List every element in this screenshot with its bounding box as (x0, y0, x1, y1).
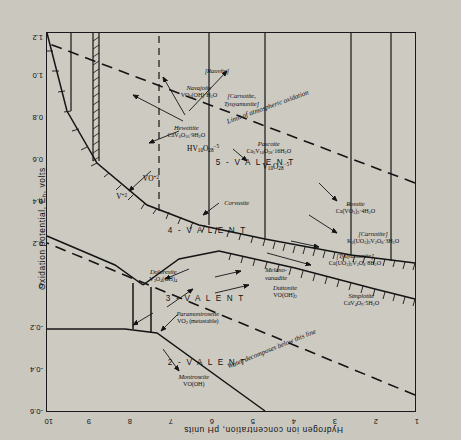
label-corvusite: Corvusite (224, 199, 249, 207)
y-tick-1-0: 1.0 (32, 71, 43, 80)
doloresite-name: Doloresite (150, 268, 177, 275)
doloresite-formula: V3O4(OH)4 (149, 274, 177, 281)
y-tick-minus-0-6: -0.6 (30, 407, 43, 416)
boundary-2-3-diagonal (125, 329, 265, 411)
arrow-corvusite (203, 203, 219, 215)
x-axis-title: Hydrogen ion concentration, pH units (184, 425, 343, 435)
x-tick-10: 10 (45, 417, 53, 426)
hatch-band-vertical (93, 33, 99, 161)
label-rossite: Rossite Ca(VO3)2·4H2O (336, 200, 375, 215)
montroseite-formula: VO(OH) (183, 379, 204, 386)
y-tick-1-2: 1.2 (32, 33, 43, 42)
corvusite-name: Corvusite (224, 199, 249, 206)
arrow-carnotite (309, 215, 337, 233)
label-hewettite: Hewettite CaV6O16·9H2O (168, 124, 205, 139)
rossite-name: Rossite (346, 200, 364, 207)
y-tick-0-2: 0.2 (32, 239, 43, 248)
x-tick-2: 2 (374, 417, 378, 426)
figure-root: Hydrogen ion concentration, pH units 1 2… (0, 0, 461, 440)
label-montroseite: Montroseite VO(OH) (178, 373, 209, 387)
melano-name-line1: Melano- (265, 266, 287, 273)
y-tick-0: 0 (39, 281, 43, 290)
label-tyuyamunite: [Tyuyamunite] Ca(UO2)2V2O8·8H2O (329, 252, 381, 267)
carnotite-tyuy-line1: [Carnotite, (227, 92, 255, 99)
label-carnotite-tyuyamunite: [Carnotite, Tyuyamunite] (224, 92, 259, 107)
label-simplotite: Simplotite CaV4O9·5H2O (344, 292, 379, 307)
pascoite-name: Pascoite (258, 140, 280, 147)
y-tick-0-6: 0.6 (32, 155, 43, 164)
x-tick-9: 9 (87, 417, 91, 426)
x-tick-7: 7 (169, 417, 173, 426)
arrow-melano-a (215, 271, 241, 277)
x-tick-1: 1 (415, 417, 419, 426)
label-navajoite: Navajoite VO2(OH)·H2O (181, 84, 217, 99)
boundary-4-upper-left (219, 251, 415, 299)
hatching-upper-left (229, 253, 415, 306)
arrow-rossite (319, 183, 337, 201)
y-tick-0-8: 0.8 (32, 113, 43, 122)
hewettite-formula: CaV6O16·9H2O (168, 130, 205, 137)
x-tick-5: 5 (251, 417, 255, 426)
label-rauvite: [Rauvite] (205, 67, 229, 75)
field-4-valent: 4 - V A L E N T (168, 226, 247, 235)
y-tick-minus-0-2: -0.2 (30, 323, 43, 332)
label-melano-vanadite: Melano- vanadite (265, 266, 287, 281)
y-tick-minus-0-4: -0.4 (30, 365, 43, 374)
x-tick-8: 8 (128, 417, 132, 426)
carnotite-name: [Carnotite] (358, 230, 387, 237)
duttonite-formula: VO(OH)2 (273, 290, 296, 297)
label-pascoite: Pascoite Ca3V10O28·16H2O (246, 140, 291, 155)
pascoite-formula: Ca3V10O28·16H2O (246, 146, 291, 153)
x-tick-6: 6 (210, 417, 214, 426)
rauvite-name: [Rauvite] (205, 67, 229, 74)
hewettite-name: Hewettite (174, 124, 198, 131)
paramontroseite-formula: VO2 (metastable) (177, 316, 219, 323)
arrow-duttonite (215, 285, 249, 293)
ion-vo-plus-2: VO+2 (143, 174, 159, 183)
eh-ph-diagram: Hydrogen ion concentration, pH units 1 2… (0, 0, 461, 440)
x-tick-4: 4 (292, 417, 296, 426)
carnotite-tyuy-line2: Tyuyamunite] (224, 99, 259, 106)
plot-area: 2 - V A L E N T 3 - V A L E N T 4 - V A … (46, 32, 416, 412)
diagram-vectors (47, 33, 415, 411)
navajoite-name: Navajoite (186, 84, 211, 91)
y-tick-0-4: 0.4 (32, 197, 43, 206)
navajoite-formula: VO2(OH)·H2O (181, 90, 217, 97)
carnotite-formula: K2(UO2)2V2O8·3H2O (347, 236, 399, 243)
label-carnotite: [Carnotite] K2(UO2)2V2O8·3H2O (347, 230, 399, 245)
label-paramontroseite: Paramontroseite VO2 (metastable) (176, 310, 219, 325)
rossite-formula: Ca(VO3)2·4H2O (336, 206, 375, 213)
arrow-paramontroseite-a (161, 315, 177, 331)
tyuyamunite-name: [Tyuyamunite] (336, 252, 373, 259)
simplotite-formula: CaV4O9·5H2O (344, 298, 379, 305)
simplotite-name: Simplotite (348, 292, 374, 299)
field-3-valent: 3 - V A L E N T (166, 294, 245, 303)
label-duttonite: Duttonite VO(OH)2 (273, 284, 297, 299)
ion-hv10o28: HV10O28−5 (187, 143, 219, 153)
label-doloresite: Doloresite V3O4(OH)4 (149, 268, 177, 283)
field-boundaries (47, 33, 415, 411)
arrow-paramontroseite-b (133, 313, 153, 325)
ion-v-plus-2: V+2 (116, 192, 127, 201)
melano-name-line2: vanadite (265, 273, 287, 280)
tyuyamunite-formula: Ca(UO2)2V2O8·8H2O (329, 258, 381, 265)
boundary-3-4-right (47, 236, 143, 285)
ion-v10o28: V10O28−5 (262, 161, 289, 171)
x-tick-3: 3 (333, 417, 337, 426)
